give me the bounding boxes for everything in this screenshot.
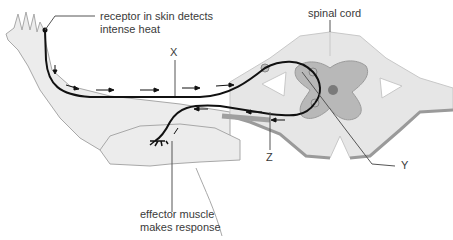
label-z: Z	[266, 151, 273, 164]
receptor-label: receptor in skin detects intense heat	[100, 10, 213, 36]
spinal-cord-label: spinal cord	[308, 7, 361, 20]
effector-label-line1: effector muscle	[140, 208, 221, 221]
central-canal	[328, 85, 338, 95]
reflex-arc-diagram	[0, 0, 453, 240]
spinal-cord	[222, 32, 453, 158]
label-x: X	[170, 46, 177, 59]
effector-label-line2: makes response	[140, 221, 221, 234]
receptor-label-line1: receptor in skin detects	[100, 10, 213, 23]
effector-label: effector muscle makes response	[140, 208, 221, 234]
label-y: Y	[401, 159, 408, 172]
receptor-label-line2: intense heat	[100, 23, 213, 36]
